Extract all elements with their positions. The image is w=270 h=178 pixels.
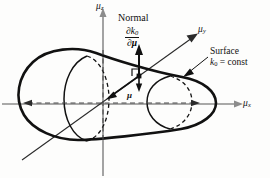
denominator-mu: μ — [132, 38, 137, 48]
large-ellipse-front-arc — [64, 56, 87, 141]
mu-y-axis-label: μy — [198, 25, 206, 35]
internal-x-dash-left-head — [23, 100, 32, 106]
normal-derivative-fraction: ∂k0 ∂μ — [125, 26, 139, 48]
figure-container: μz μy μx Normal ∂k0 ∂μ μ Surface k0 = co… — [0, 0, 270, 178]
mu-x-axis-label: μx — [243, 99, 251, 109]
mu-z-axis-label: μz — [96, 2, 104, 12]
surface-equation: k0 = const — [210, 58, 248, 68]
internal-x-dash-right-head — [191, 100, 200, 106]
axes-group — [2, 8, 243, 176]
surface-annotation-title: Surface — [210, 46, 239, 56]
derivative-numerator: ∂k0 — [125, 26, 139, 38]
normal-vector-group — [132, 44, 143, 78]
numerator-subscript: 0 — [135, 29, 138, 36]
surface-equation-rest: = const — [220, 57, 248, 67]
surface-outline-group — [18, 49, 216, 140]
mu-x-axis-arrowhead — [234, 101, 243, 108]
mu-z-subscript: z — [101, 4, 104, 11]
mu-vector-stem-arrowhead — [136, 84, 142, 93]
surface-k-subscript: 0 — [214, 60, 217, 67]
normal-annotation-title: Normal — [118, 13, 149, 24]
surface-leader-group — [183, 57, 208, 77]
mu-x-subscript: x — [248, 101, 251, 108]
derivative-denominator: ∂μ — [125, 38, 139, 49]
mu-vector-group — [106, 76, 142, 100]
surface-boundary-path — [18, 49, 216, 140]
large-ellipse-back-arc — [87, 56, 109, 141]
numerator-partial-k: ∂k — [126, 26, 135, 36]
mu-y-subscript: y — [203, 27, 206, 34]
mu-vector-label: μ — [127, 90, 132, 100]
normal-foot-point — [137, 74, 142, 79]
mu-vector-line — [111, 76, 139, 96]
surface-annotation: Surface k0 = const — [210, 47, 248, 68]
